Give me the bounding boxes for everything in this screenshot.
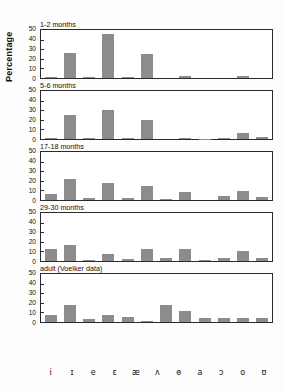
plot-axes <box>40 151 273 201</box>
y-axis-tick-label: 50 <box>29 87 36 94</box>
bar-slot <box>157 274 176 322</box>
bar-series <box>41 152 272 200</box>
y-axis-tick-label: 40 <box>29 36 36 43</box>
bar <box>256 197 268 200</box>
bar <box>179 311 191 322</box>
bar-slot <box>137 152 156 200</box>
y-axis-tick-label: 30 <box>29 168 36 175</box>
bar-slot <box>176 91 195 139</box>
bar <box>122 138 134 139</box>
y-axis-tick-label: 50 <box>29 270 36 277</box>
bar <box>45 315 57 322</box>
bar <box>102 183 114 200</box>
bar-slot <box>137 274 156 322</box>
y-axis-tick-label: 50 <box>29 148 36 155</box>
bar <box>64 179 76 200</box>
bar-slot <box>195 213 214 261</box>
bar <box>218 258 230 261</box>
plot-area-wrapper: 01020304050 <box>17 90 273 140</box>
bar <box>237 76 249 78</box>
y-axis-tick-label: 40 <box>29 219 36 226</box>
bar <box>160 199 172 200</box>
x-axis-tick-label: ʌ <box>147 368 168 377</box>
bar-slot <box>80 213 99 261</box>
y-axis-label: Percentage <box>2 22 16 92</box>
bar-slot <box>99 213 118 261</box>
y-axis-tick-label: 50 <box>29 26 36 33</box>
bar-slot <box>176 213 195 261</box>
y-axis-tick-label: 10 <box>29 66 36 73</box>
bar <box>199 260 211 261</box>
y-axis-tick-labels: 01020304050 <box>17 29 38 79</box>
bar-slot <box>137 91 156 139</box>
bar <box>83 319 95 322</box>
bar-slot <box>60 30 79 78</box>
bar-slot <box>60 213 79 261</box>
bar-slot <box>157 30 176 78</box>
y-axis-tick-label: 20 <box>29 178 36 185</box>
bar-slot <box>137 30 156 78</box>
bar <box>122 198 134 200</box>
y-axis-tick-label: 40 <box>29 280 36 287</box>
y-axis-tick-label: 10 <box>29 249 36 256</box>
bar-slot <box>99 274 118 322</box>
bar <box>160 258 172 261</box>
plot-axes <box>40 273 273 323</box>
plot-axes <box>40 90 273 140</box>
bar-series <box>41 91 272 139</box>
bar-slot <box>99 91 118 139</box>
bar-slot <box>41 274 60 322</box>
panel-title: 29-30 months <box>17 203 273 212</box>
bar <box>122 317 134 322</box>
bar-slot <box>214 274 233 322</box>
panel-stack: 1-2 months010203040505-6 months010203040… <box>17 20 281 325</box>
bar-slot <box>118 30 137 78</box>
bar-slot <box>118 213 137 261</box>
chart-panel: 17-18 months01020304050 <box>17 142 273 201</box>
bar <box>237 133 249 139</box>
plot-area-wrapper: 01020304050 <box>17 29 273 79</box>
plot-area-wrapper: 01020304050 <box>17 212 273 262</box>
bar-slot <box>99 30 118 78</box>
bar-slot <box>234 152 253 200</box>
x-axis-tick-label: u <box>275 368 283 377</box>
bar <box>64 245 76 261</box>
panel-title: adult (Voelker data) <box>17 264 273 273</box>
bar-slot <box>234 30 253 78</box>
panel-title: 5-6 months <box>17 81 273 90</box>
bar <box>237 318 249 322</box>
y-axis-tick-label: 10 <box>29 310 36 317</box>
bar <box>218 318 230 322</box>
bar <box>83 77 95 78</box>
chart-panel: 5-6 months01020304050 <box>17 81 273 140</box>
bar-slot <box>195 152 214 200</box>
plot-axes <box>40 212 273 262</box>
y-axis-tick-label: 20 <box>29 117 36 124</box>
x-axis-tick-label: i <box>40 368 61 377</box>
chart-figure: Percentage 1-2 months010203040505-6 mont… <box>0 0 283 392</box>
bar-slot <box>80 30 99 78</box>
bar-slot <box>195 30 214 78</box>
bar <box>179 192 191 200</box>
bar <box>199 318 211 322</box>
bar <box>237 191 249 200</box>
bar <box>141 54 153 78</box>
bar <box>83 198 95 200</box>
bar-slot <box>234 91 253 139</box>
bar-slot <box>234 213 253 261</box>
x-axis-tick-label: a <box>189 368 210 377</box>
x-axis-tick-label: ɔ <box>211 368 232 377</box>
bar-slot <box>99 152 118 200</box>
y-axis-tick-label: 40 <box>29 158 36 165</box>
bar <box>122 77 134 78</box>
bar-slot <box>41 30 60 78</box>
bar-slot <box>214 213 233 261</box>
bar-slot <box>80 274 99 322</box>
chart-panel: adult (Voelker data)01020304050 <box>17 264 273 323</box>
panel-title: 17-18 months <box>17 142 273 151</box>
bar <box>64 53 76 78</box>
bar-slot <box>60 152 79 200</box>
y-axis-tick-label: 20 <box>29 239 36 246</box>
x-axis-tick-label: ɪ <box>61 368 82 377</box>
bar <box>102 315 114 322</box>
